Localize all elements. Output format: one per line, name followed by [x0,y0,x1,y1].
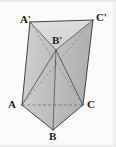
vertex-label-C-prime: C' [96,12,107,23]
scan-artifact-right [112,0,116,147]
scan-artifact-bottom [0,143,116,147]
vertex-label-A-prime: A' [20,14,31,25]
vertex-label-B: B [49,131,56,142]
vertex-label-A: A [8,99,16,110]
vertex-label-B-prime: B' [52,35,62,46]
scan-artifact-top [0,0,116,3]
geometry-figure: A' B' C' A B C [0,0,116,147]
vertex-label-C: C [87,99,95,110]
